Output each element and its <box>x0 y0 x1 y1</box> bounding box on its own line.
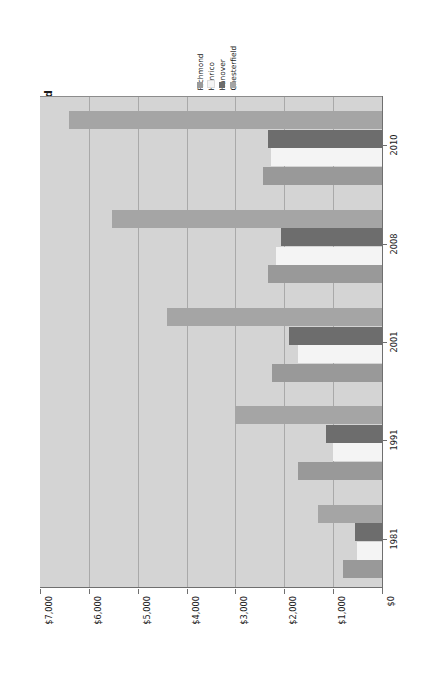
y-axis-label-1981: 1981 <box>389 519 399 559</box>
x-axis-label: $0 <box>386 596 396 642</box>
y-axis-tick <box>382 145 387 146</box>
bar-hanover <box>289 327 382 345</box>
gridline <box>235 97 236 587</box>
plot-area <box>40 96 382 588</box>
x-axis-tick <box>382 589 383 594</box>
bar-richmond <box>343 560 382 578</box>
bar-chesterfield <box>167 308 382 326</box>
legend-swatch-icon <box>207 80 215 88</box>
legend-swatch-icon <box>230 82 236 88</box>
bar-chesterfield <box>235 406 382 424</box>
bar-richmond <box>272 364 382 382</box>
x-axis-label: $4,000 <box>191 596 201 642</box>
legend-swatch-icon <box>219 82 225 88</box>
legend-item-henrico[interactable]: Henrico <box>205 8 216 90</box>
x-axis-label: $1,000 <box>337 596 347 642</box>
x-axis-tick <box>89 589 90 594</box>
bar-hanover <box>281 228 382 246</box>
x-axis-tick <box>187 589 188 594</box>
y-axis-label-1991: 1991 <box>389 420 399 460</box>
x-axis-label: $6,000 <box>93 596 103 642</box>
x-axis-tick <box>235 589 236 594</box>
y-axis-tick <box>382 244 387 245</box>
x-axis-label: $7,000 <box>44 596 54 642</box>
y-axis-label-2010: 2010 <box>389 125 399 165</box>
bar-hanover <box>326 425 382 443</box>
x-axis-label: $3,000 <box>239 596 249 642</box>
legend-item-chesterfield[interactable]: Chesterfield <box>227 8 238 90</box>
bar-hanover <box>268 130 382 148</box>
bar-chesterfield <box>112 210 382 228</box>
legend-swatch-icon <box>197 82 203 88</box>
legend-item-richmond[interactable]: Richmond <box>194 8 205 90</box>
chart-legend: ChesterfieldHanoverHenricoRichmond <box>178 8 238 90</box>
x-axis-tick <box>40 589 41 594</box>
bar-hanover <box>355 523 382 541</box>
x-axis-label: $2,000 <box>288 596 298 642</box>
x-axis-tick <box>284 589 285 594</box>
bar-henrico <box>333 443 382 461</box>
y-axis-label-2008: 2008 <box>389 224 399 264</box>
bar-henrico <box>276 247 382 265</box>
bar-chesterfield <box>318 505 382 523</box>
x-axis-tick <box>138 589 139 594</box>
gridline <box>89 97 90 587</box>
legend-item-hanover[interactable]: Hanover <box>216 8 227 90</box>
bar-richmond <box>268 265 382 283</box>
bar-richmond <box>298 462 382 480</box>
bar-richmond <box>263 167 382 185</box>
x-axis-label: $5,000 <box>142 596 152 642</box>
gridline <box>187 97 188 587</box>
bar-henrico <box>357 542 382 560</box>
y-axis-tick <box>382 539 387 540</box>
bar-chesterfield <box>69 111 382 129</box>
y-axis-tick <box>382 342 387 343</box>
bar-henrico <box>298 345 382 363</box>
gridline <box>138 97 139 587</box>
bar-henrico <box>271 148 382 166</box>
y-axis-tick <box>382 440 387 441</box>
x-axis-tick <box>333 589 334 594</box>
y-axis-label-2001: 2001 <box>389 322 399 362</box>
